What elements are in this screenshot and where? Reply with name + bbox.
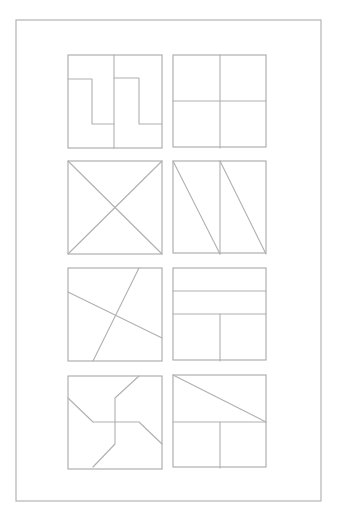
dissection-line (173, 161, 220, 254)
puzzle-square-two-step-shapes (68, 55, 162, 148)
dissection-line (114, 78, 162, 124)
dissection-line (68, 79, 114, 124)
puzzle-square-skewed-cross (68, 268, 162, 361)
puzzle-square-pinwheel (68, 376, 162, 469)
dissection-line (68, 292, 162, 338)
dissection-line (173, 375, 266, 422)
puzzle-square-triangle-and-squares (173, 375, 266, 468)
puzzle-canvas (0, 0, 337, 513)
puzzle-square-diagonal-cross (68, 161, 162, 254)
outer-frame (16, 20, 321, 501)
dissection-line (220, 161, 266, 254)
dissection-line (93, 268, 139, 361)
puzzle-square-four-quadrants (173, 55, 266, 148)
puzzle-square-two-halves-diagonals (173, 161, 266, 254)
puzzle-square-strips-and-squares (173, 268, 266, 361)
squares-grid (68, 55, 266, 469)
square-border (68, 55, 162, 148)
